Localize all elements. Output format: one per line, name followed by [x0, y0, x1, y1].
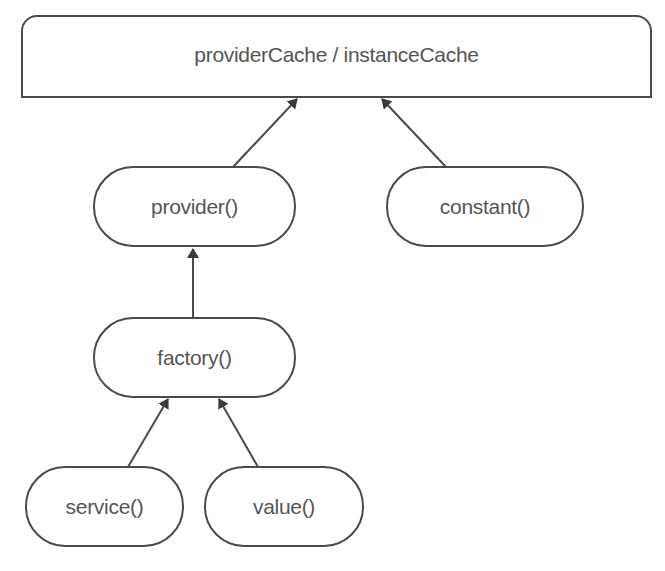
edge-service-to-factory	[128, 399, 168, 467]
node-label: providerCache / instanceCache	[194, 43, 478, 67]
node-label: factory()	[157, 346, 231, 370]
node-factory: factory()	[93, 317, 296, 398]
node-label: constant()	[440, 195, 530, 219]
edge-value-to-factory	[219, 399, 258, 467]
edge-provider-to-cache	[233, 99, 297, 167]
node-label: value()	[253, 495, 315, 519]
edge-constant-to-cache	[382, 99, 446, 167]
node-label: provider()	[151, 195, 238, 219]
node-label: service()	[66, 495, 144, 519]
diagram-canvas: providerCache / instanceCache provider()…	[0, 0, 665, 571]
node-provider-instance-cache: providerCache / instanceCache	[21, 15, 652, 98]
node-constant: constant()	[386, 166, 584, 247]
node-service: service()	[25, 466, 184, 547]
node-provider: provider()	[93, 166, 296, 247]
node-value: value()	[204, 466, 364, 547]
